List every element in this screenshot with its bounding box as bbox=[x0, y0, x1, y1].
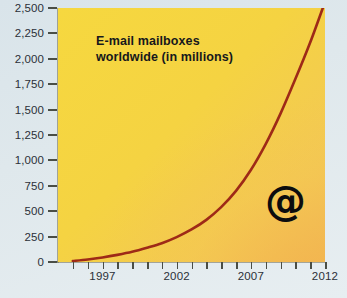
y-axis-tick-label: 1,750 bbox=[15, 78, 48, 90]
y-axis-tick-label: 1,500 bbox=[15, 104, 48, 116]
y-axis: 02505007501,0001,2501,5001,7502,0002,250… bbox=[0, 0, 58, 298]
y-axis-tick: 1,750 bbox=[15, 77, 58, 91]
x-axis-ticks bbox=[58, 262, 325, 270]
x-axis-tick-mark bbox=[325, 262, 327, 269]
x-axis-tick-mark bbox=[73, 262, 75, 269]
y-axis-tick: 1,250 bbox=[15, 128, 58, 142]
x-axis-tick-label: 1997 bbox=[89, 270, 115, 282]
at-sign-icon: @ bbox=[265, 181, 306, 222]
x-axis-tick-mark bbox=[236, 262, 238, 269]
x-axis-tick-mark bbox=[103, 262, 105, 269]
y-axis-tick-label: 250 bbox=[25, 231, 49, 243]
x-axis-tick-mark bbox=[177, 262, 179, 269]
x-axis-tick-mark bbox=[221, 262, 223, 269]
x-axis-tick-mark bbox=[192, 262, 194, 269]
y-axis-tick-mark bbox=[48, 32, 57, 34]
x-axis-tick-mark bbox=[206, 262, 208, 269]
x-axis-tick-mark bbox=[147, 262, 149, 269]
y-axis-tick-label: 750 bbox=[25, 180, 49, 192]
y-axis-tick-label: 1,000 bbox=[15, 154, 48, 166]
y-axis-tick: 1,000 bbox=[15, 153, 58, 167]
y-axis-tick: 500 bbox=[25, 204, 59, 218]
x-axis-tick-mark bbox=[162, 262, 164, 269]
y-axis-tick-label: 2,500 bbox=[15, 2, 48, 14]
y-axis-tick-mark bbox=[48, 159, 57, 161]
x-axis-tick-mark bbox=[310, 262, 312, 269]
y-axis-tick: 750 bbox=[25, 179, 59, 193]
y-axis-tick: 2,000 bbox=[15, 52, 58, 66]
y-axis-tick-label: 500 bbox=[25, 205, 49, 217]
x-axis-tick-label: 2012 bbox=[312, 270, 338, 282]
x-axis: 1997200220072012 bbox=[58, 270, 325, 290]
y-axis-tick: 0 bbox=[38, 255, 59, 269]
y-axis-tick-label: 1,250 bbox=[15, 129, 48, 141]
plot-area: E-mail mailboxes worldwide (in millions)… bbox=[58, 8, 325, 262]
y-axis-tick-mark bbox=[48, 261, 57, 263]
x-axis-tick-mark bbox=[251, 262, 253, 269]
y-axis-tick: 250 bbox=[25, 230, 59, 244]
chart-title: E-mail mailboxes worldwide (in millions) bbox=[96, 34, 306, 65]
x-axis-tick-mark bbox=[88, 262, 90, 269]
x-axis-tick-label: 2002 bbox=[163, 270, 189, 282]
y-axis-tick-mark bbox=[48, 134, 57, 136]
y-axis-tick-mark bbox=[48, 236, 57, 238]
y-axis-tick-mark bbox=[48, 58, 57, 60]
y-axis-tick-mark bbox=[48, 109, 57, 111]
x-axis-tick-mark bbox=[132, 262, 134, 269]
y-axis-tick-label: 2,000 bbox=[15, 53, 48, 65]
x-axis-tick-mark bbox=[117, 262, 119, 269]
y-axis-tick-mark bbox=[48, 210, 57, 212]
x-axis-tick-mark bbox=[281, 262, 283, 269]
y-axis-tick-mark bbox=[48, 7, 57, 9]
y-axis-tick: 1,500 bbox=[15, 103, 58, 117]
x-axis-tick-mark bbox=[266, 262, 268, 269]
y-axis-tick-mark bbox=[48, 185, 57, 187]
y-axis-tick-label: 2,250 bbox=[15, 27, 48, 39]
y-axis-tick: 2,500 bbox=[15, 1, 58, 15]
y-axis-tick: 2,250 bbox=[15, 26, 58, 40]
chart-root: E-mail mailboxes worldwide (in millions)… bbox=[0, 0, 347, 298]
y-axis-tick-label: 0 bbox=[38, 256, 49, 268]
x-axis-tick-mark bbox=[295, 262, 297, 269]
x-axis-tick-label: 2007 bbox=[238, 270, 264, 282]
y-axis-tick-mark bbox=[48, 83, 57, 85]
